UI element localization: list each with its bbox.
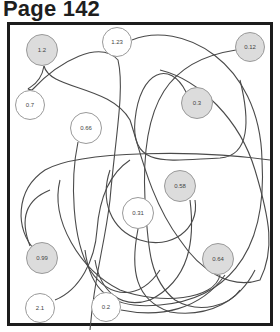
curve-1-2-main <box>44 66 269 283</box>
node-label: 0.66 <box>80 125 92 131</box>
node-circle: 0.3 <box>181 87 213 119</box>
node-label: 0.58 <box>174 183 186 189</box>
node-circle: 1.23 <box>102 27 132 57</box>
node-circle: 0.66 <box>70 112 102 144</box>
node-circle: 0.64 <box>202 243 234 275</box>
node-circle: 0.99 <box>26 242 58 274</box>
node-circle: 2.1 <box>25 293 55 323</box>
node-label: 0.64 <box>212 256 224 262</box>
curve-0-99 <box>25 190 50 246</box>
node-label: 1.23 <box>111 39 123 45</box>
node-circle: 0.7 <box>15 90 45 120</box>
node-label: 0.3 <box>193 100 201 106</box>
curve-2-1 <box>55 160 130 300</box>
node-circle: 0.2 <box>91 292 121 322</box>
node-circle: 0.58 <box>164 170 196 202</box>
curve-0-31 <box>135 229 255 313</box>
node-label: 2.1 <box>36 305 44 311</box>
node-label: 0.2 <box>102 304 110 310</box>
node-label: 0.7 <box>26 102 34 108</box>
node-circle: 0.12 <box>235 32 265 62</box>
node-label: 0.99 <box>36 255 48 261</box>
node-label: 1.2 <box>38 47 46 53</box>
node-label: 0.31 <box>132 210 144 216</box>
node-label: 0.12 <box>244 44 256 50</box>
node-circle: 1.2 <box>26 34 58 66</box>
node-circle: 0.31 <box>122 197 154 229</box>
